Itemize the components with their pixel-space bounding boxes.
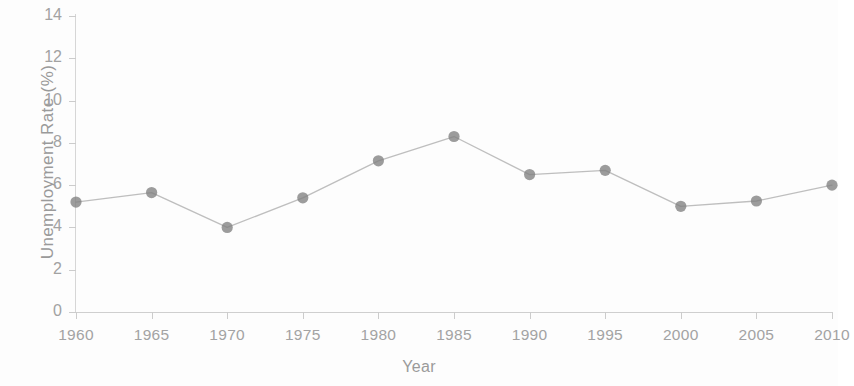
data-point-1960[interactable] bbox=[68, 194, 84, 210]
data-point-1980[interactable] bbox=[370, 153, 386, 169]
x-axis-tick bbox=[605, 312, 606, 319]
x-axis-tick-label: 1965 bbox=[115, 326, 189, 344]
y-axis-tick bbox=[69, 185, 76, 186]
data-point-2005[interactable] bbox=[748, 193, 764, 209]
x-axis-tick bbox=[378, 312, 379, 319]
y-axis-tick bbox=[69, 58, 76, 59]
x-axis-tick bbox=[832, 312, 833, 319]
y-axis-tick-label-wrap: 12 bbox=[14, 58, 62, 59]
x-axis-tick bbox=[454, 312, 455, 319]
y-axis-tick bbox=[69, 101, 76, 102]
data-point-1975[interactable] bbox=[295, 190, 311, 206]
y-axis-tick-label-wrap: 6 bbox=[14, 185, 62, 186]
x-axis-tick-label: 1980 bbox=[341, 326, 415, 344]
x-axis-tick-label: 1995 bbox=[568, 326, 642, 344]
data-point-2010[interactable] bbox=[824, 177, 840, 193]
x-axis-tick bbox=[227, 312, 228, 319]
x-axis-tick bbox=[152, 312, 153, 319]
y-axis-tick-label-wrap: 0 bbox=[14, 312, 62, 313]
y-axis-tick-label: 6 bbox=[16, 175, 62, 193]
series-line bbox=[76, 137, 832, 228]
x-axis-tick-label: 1975 bbox=[266, 326, 340, 344]
y-axis-tick bbox=[69, 227, 76, 228]
y-axis-tick-label: 14 bbox=[16, 6, 62, 24]
y-axis-tick-label: 10 bbox=[16, 91, 62, 109]
y-axis-tick-label: 12 bbox=[16, 48, 62, 66]
y-axis-tick-label-wrap: 4 bbox=[14, 227, 62, 228]
y-axis-tick-label: 8 bbox=[16, 133, 62, 151]
y-axis-tick-label: 0 bbox=[16, 302, 62, 320]
y-axis-tick bbox=[69, 270, 76, 271]
y-axis-tick-label: 4 bbox=[16, 217, 62, 235]
x-axis-tick bbox=[530, 312, 531, 319]
x-axis-tick bbox=[756, 312, 757, 319]
data-point-2000[interactable] bbox=[673, 198, 689, 214]
x-axis-tick-label: 1985 bbox=[417, 326, 491, 344]
x-axis-tick bbox=[303, 312, 304, 319]
data-point-1965[interactable] bbox=[144, 185, 160, 201]
y-axis-tick-label-wrap: 8 bbox=[14, 143, 62, 144]
y-axis-tick bbox=[69, 16, 76, 17]
x-axis-tick bbox=[76, 312, 77, 319]
y-axis-tick-label: 2 bbox=[16, 260, 62, 278]
y-axis-tick-label-wrap: 14 bbox=[14, 16, 62, 17]
data-point-1995[interactable] bbox=[597, 162, 613, 178]
x-axis-tick-label: 2010 bbox=[795, 326, 854, 344]
y-axis-tick bbox=[69, 312, 76, 313]
data-point-1990[interactable] bbox=[522, 167, 538, 183]
data-point-1985[interactable] bbox=[446, 129, 462, 145]
y-axis-tick-label-wrap: 10 bbox=[14, 101, 62, 102]
x-axis-tick-label: 1970 bbox=[190, 326, 264, 344]
x-axis-tick-label: 1960 bbox=[39, 326, 113, 344]
x-axis-tick-label: 1990 bbox=[493, 326, 567, 344]
x-axis-title: Year bbox=[0, 358, 838, 376]
x-axis-tick-label: 2005 bbox=[719, 326, 793, 344]
data-point-1970[interactable] bbox=[219, 219, 235, 235]
x-axis-tick-label: 2000 bbox=[644, 326, 718, 344]
y-axis-tick bbox=[69, 143, 76, 144]
y-axis-tick-label-wrap: 2 bbox=[14, 270, 62, 271]
x-axis-tick bbox=[681, 312, 682, 319]
